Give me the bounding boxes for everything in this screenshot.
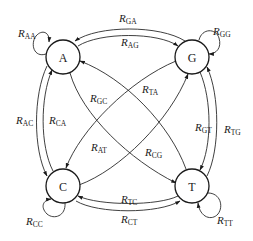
node-label-a: A [59, 51, 68, 65]
rate-label-gg: RGG [212, 25, 231, 39]
edge-a-to-t [70, 73, 176, 183]
rate-label-ca: RCA [48, 114, 67, 128]
rate-label-ag: RAG [120, 36, 139, 50]
rate-label-tg: RTG [223, 123, 241, 137]
rate-label-tc: RTC [120, 193, 137, 207]
nucleotide-transition-diagram: A G C T RAA RGG RCC RTT RGA RAG RAC RCA … [0, 0, 253, 241]
node-label-c: C [59, 180, 67, 194]
node-g: G [175, 40, 209, 74]
rate-label-aa: RAA [17, 27, 36, 41]
edge-t-to-g [207, 67, 217, 176]
node-c: C [46, 169, 80, 203]
edge-a-to-c [37, 66, 48, 176]
node-label-g: G [188, 51, 197, 65]
rate-label-gc: RGC [89, 92, 107, 106]
rate-label-cc: RCC [25, 215, 43, 229]
rate-label-ac: RAC [15, 114, 33, 128]
node-a: A [46, 40, 80, 74]
rate-label-ga: RGA [118, 12, 137, 26]
edge-g-to-a [75, 29, 185, 41]
node-label-t: T [188, 180, 196, 194]
rate-label-ct: RCT [120, 213, 138, 227]
rate-label-tt: RTT [216, 214, 233, 228]
node-t: T [175, 169, 209, 203]
rate-label-ta: RTA [141, 83, 159, 97]
edge-c-to-g [79, 74, 188, 185]
rate-label-at: RAT [90, 141, 107, 155]
rate-label-cg: RCG [144, 146, 163, 160]
